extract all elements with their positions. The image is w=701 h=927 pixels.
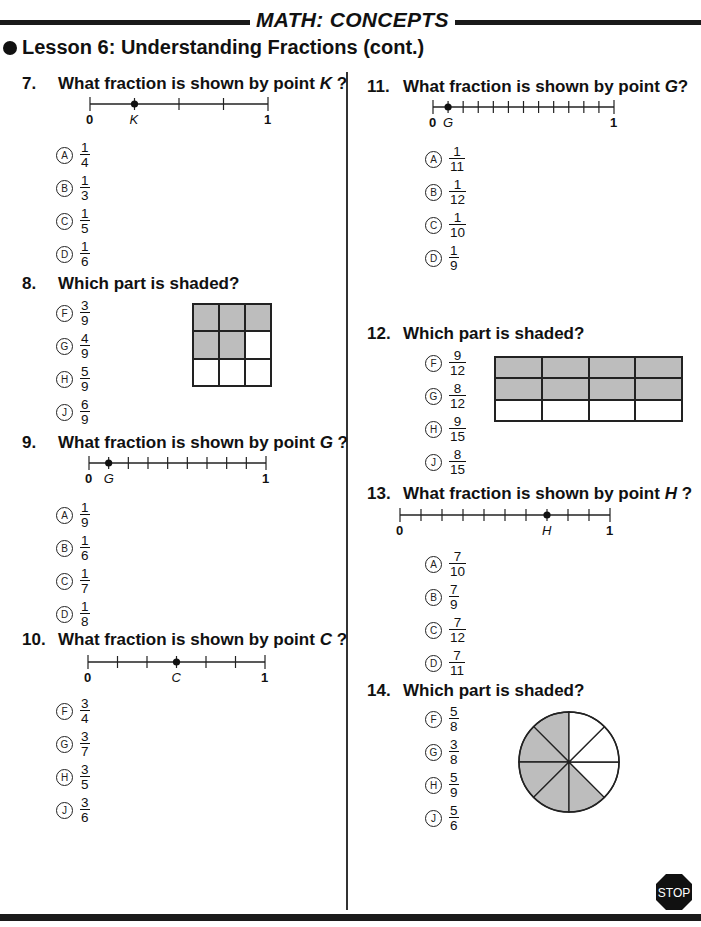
answer-option-a[interactable]: A111 (425, 144, 465, 174)
answer-bubble[interactable]: F (425, 711, 442, 728)
numerator: 3 (80, 697, 90, 710)
question-prompt: Which part is shaded? (58, 274, 239, 294)
answer-option-d[interactable]: D711 (425, 648, 465, 678)
answer-option-f[interactable]: F34 (56, 696, 90, 726)
number-line (395, 505, 615, 525)
answer-option-a[interactable]: A14 (56, 140, 90, 170)
answer-bubble[interactable]: G (425, 388, 442, 405)
answer-bubble[interactable]: D (56, 246, 73, 263)
question-prompt: What fraction is shown by point H ? (403, 484, 692, 504)
answer-option-g[interactable]: G37 (56, 729, 90, 759)
numerator: 9 (453, 349, 463, 362)
answer-bubble[interactable]: D (425, 250, 442, 267)
answer-bubble[interactable]: F (425, 355, 442, 372)
answer-option-b[interactable]: B16 (56, 533, 90, 563)
answer-option-b[interactable]: B112 (425, 177, 466, 207)
answer-option-g[interactable]: G38 (425, 737, 459, 767)
answer-bubble[interactable]: B (425, 184, 442, 201)
denominator: 6 (80, 547, 90, 562)
fraction: 111 (449, 145, 465, 173)
answer-bubble[interactable]: B (425, 589, 442, 606)
answer-bubble[interactable]: A (56, 147, 73, 164)
answer-option-h[interactable]: H915 (425, 414, 466, 444)
numerator: 3 (80, 796, 90, 809)
answer-bubble[interactable]: H (56, 371, 73, 388)
denominator: 6 (80, 809, 90, 824)
answer-option-f[interactable]: F912 (425, 348, 466, 378)
answer-bubble[interactable]: C (425, 622, 442, 639)
denominator: 8 (449, 718, 459, 733)
answer-option-h[interactable]: H59 (56, 364, 90, 394)
answer-bubble[interactable]: B (56, 540, 73, 557)
numerator: 3 (449, 738, 459, 751)
answer-option-j[interactable]: J69 (56, 397, 90, 427)
fraction: 18 (80, 600, 90, 628)
answer-option-c[interactable]: C712 (425, 615, 466, 645)
stop-sign-icon: STOP (655, 873, 693, 911)
answer-bubble[interactable]: F (56, 703, 73, 720)
point-name: G (320, 433, 333, 452)
numerator: 3 (80, 299, 90, 312)
answer-option-h[interactable]: H59 (425, 770, 459, 800)
answer-bubble[interactable]: B (56, 180, 73, 197)
answer-option-f[interactable]: F39 (56, 298, 90, 328)
answer-option-c[interactable]: C17 (56, 566, 90, 596)
fraction: 112 (449, 178, 466, 206)
numerator: 7 (452, 649, 462, 662)
answer-bubble[interactable]: G (425, 744, 442, 761)
answer-bubble[interactable]: C (56, 213, 73, 230)
answer-option-f[interactable]: F58 (425, 704, 459, 734)
answer-option-j[interactable]: J36 (56, 795, 90, 825)
numerator: 7 (453, 616, 463, 629)
answer-bubble[interactable]: H (56, 769, 73, 786)
answer-bubble[interactable]: J (425, 454, 442, 471)
answer-bubble[interactable]: G (56, 338, 73, 355)
prompt-suffix: ? (678, 77, 688, 96)
answer-bubble[interactable]: G (56, 736, 73, 753)
answer-bubble[interactable]: A (425, 151, 442, 168)
fraction: 711 (449, 649, 465, 677)
answer-bubble[interactable]: D (56, 606, 73, 623)
point-name: G (665, 77, 678, 96)
answer-option-c[interactable]: C15 (56, 206, 90, 236)
number-line-end-label: 1 (261, 670, 268, 685)
prompt-text: What fraction is shown by point (58, 74, 315, 93)
numerator: 5 (80, 365, 90, 378)
numerator: 4 (80, 332, 90, 345)
answer-bubble[interactable]: D (425, 655, 442, 672)
answer-bubble[interactable]: A (56, 507, 73, 524)
answer-option-h[interactable]: H35 (56, 762, 90, 792)
number-line-end-label: 1 (610, 115, 617, 130)
point-name: H (665, 484, 677, 503)
answer-option-g[interactable]: G49 (56, 331, 90, 361)
answer-bubble[interactable]: C (56, 573, 73, 590)
answer-option-g[interactable]: G812 (425, 381, 466, 411)
answer-bubble[interactable]: H (425, 421, 442, 438)
answer-option-a[interactable]: A710 (425, 549, 466, 579)
answer-option-d[interactable]: D18 (56, 599, 90, 629)
answer-option-d[interactable]: D16 (56, 239, 90, 269)
answer-option-j[interactable]: J815 (425, 447, 466, 477)
fraction: 69 (80, 398, 90, 426)
answer-bubble[interactable]: C (425, 217, 442, 234)
answer-option-b[interactable]: B13 (56, 173, 90, 203)
numerator: 1 (80, 600, 90, 613)
fraction: 39 (80, 299, 90, 327)
answer-bubble[interactable]: F (56, 305, 73, 322)
answer-bubble[interactable]: J (56, 404, 73, 421)
answer-bubble[interactable]: J (425, 810, 442, 827)
answer-bubble[interactable]: J (56, 802, 73, 819)
grid-cell-shaded (219, 304, 245, 331)
answer-option-b[interactable]: B79 (425, 582, 459, 612)
answer-bubble[interactable]: H (425, 777, 442, 794)
answer-option-d[interactable]: D19 (425, 243, 459, 273)
answer-option-c[interactable]: C110 (425, 210, 466, 240)
denominator: 9 (449, 257, 459, 272)
header-rule-right (455, 20, 701, 25)
point-name: K (320, 74, 332, 93)
denominator: 6 (449, 817, 459, 832)
answer-option-j[interactable]: J56 (425, 803, 459, 833)
denominator: 11 (449, 158, 465, 173)
answer-bubble[interactable]: A (425, 556, 442, 573)
answer-option-a[interactable]: A19 (56, 500, 90, 530)
